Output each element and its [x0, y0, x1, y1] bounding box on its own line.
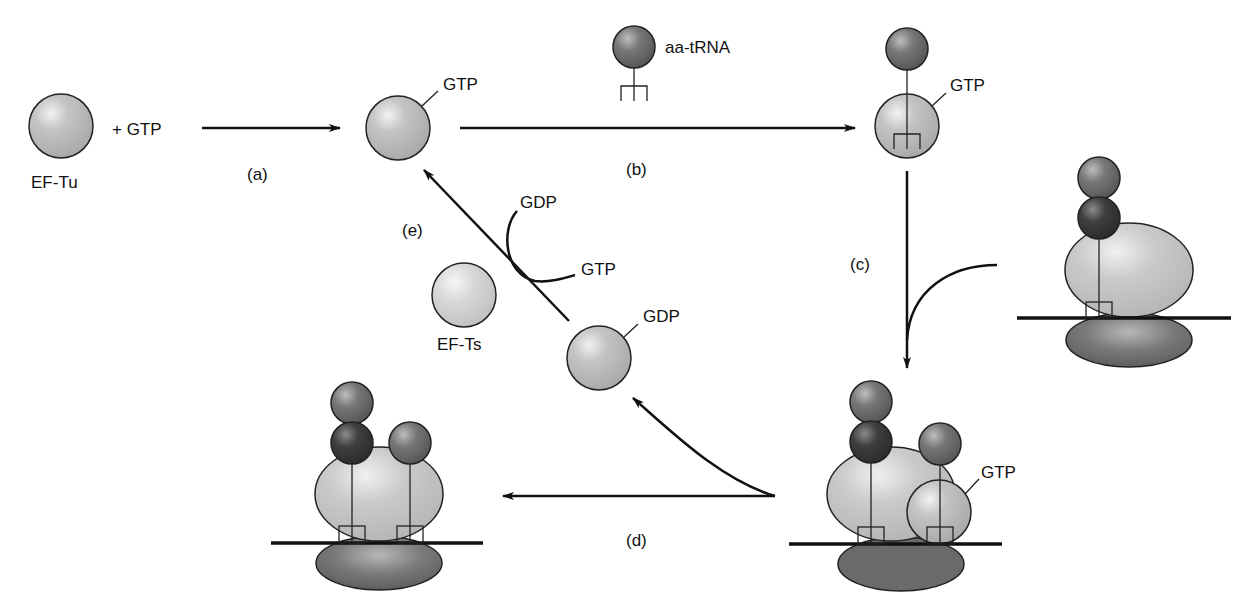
ribosome-p-site-node — [1017, 157, 1231, 367]
ef-tu-gtp-node: GTP — [366, 75, 478, 160]
gtp-label: GTP — [981, 463, 1016, 482]
aa-trna-label: aa-tRNA — [665, 38, 731, 57]
step-b-label: (b) — [626, 160, 647, 179]
exchange-gdp-label: GDP — [520, 193, 557, 212]
ef-tu-release-arrow — [633, 398, 775, 496]
ef-tu-label: EF-Tu — [31, 173, 78, 192]
amino-acid-sphere-icon — [613, 26, 655, 68]
gtp-label: GTP — [950, 76, 985, 95]
ribosome-a-site-bound-node: GTP — [789, 381, 1016, 591]
nucleotide-exchange-curve — [507, 211, 575, 281]
elongation-cycle-diagram: EF-Tu + GTP (a) GTP (b) aa-tRNA GTP (c) — [0, 0, 1259, 607]
ef-tu-sphere-icon — [567, 326, 631, 390]
ef-ts-node: EF-Ts — [432, 263, 496, 354]
ternary-complex-node: GTP — [875, 28, 985, 158]
step-c-label: (c) — [850, 255, 870, 274]
small-subunit-icon — [1066, 313, 1192, 367]
ef-tu-sphere-icon — [907, 480, 971, 544]
step-e-label: (e) — [402, 221, 423, 240]
ef-tu-sphere-icon — [366, 96, 430, 160]
large-subunit-icon — [315, 447, 443, 541]
large-subunit-icon — [1065, 223, 1193, 317]
ef-tu-sphere-icon — [29, 94, 93, 158]
amino-acid-sphere-icon — [886, 28, 928, 70]
ef-tu-gdp-node: GDP — [567, 307, 680, 390]
step-a-label: (a) — [247, 165, 268, 184]
aa-trna-node: aa-tRNA — [613, 26, 731, 101]
ef-ts-sphere-icon — [432, 263, 496, 327]
plus-gtp-label: + GTP — [112, 120, 162, 139]
ribosome-entry-curve — [907, 265, 997, 340]
gdp-label: GDP — [643, 307, 680, 326]
exchange-gtp-label: GTP — [581, 260, 616, 279]
ef-tu-free-node: EF-Tu — [29, 94, 93, 192]
ribosome-post-delivery-node — [271, 382, 483, 590]
gtp-label: GTP — [443, 75, 478, 94]
step-d-label: (d) — [626, 531, 647, 550]
ef-ts-label: EF-Ts — [437, 335, 481, 354]
